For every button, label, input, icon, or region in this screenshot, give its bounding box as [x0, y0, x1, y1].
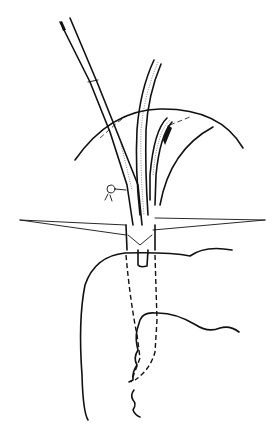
traction-suture-right-upper	[155, 218, 265, 220]
suture-knot-icon	[107, 185, 115, 193]
dashed-path-left	[126, 255, 140, 382]
dashed-contour-right	[170, 117, 190, 125]
instrument-shading	[100, 90, 132, 190]
incision-left	[126, 225, 127, 250]
illustration-canvas	[0, 0, 280, 435]
organ-inner-outline	[160, 127, 213, 205]
tube-outer-right	[146, 64, 161, 215]
lower-wavy-tail	[132, 390, 140, 417]
instrument-shaft-left-edge	[60, 22, 133, 225]
suture-ends	[105, 189, 126, 201]
medical-illustration	[0, 0, 280, 435]
incision-tip-v	[128, 235, 152, 245]
instrument-tip	[60, 21, 66, 31]
lower-organ-outline	[129, 313, 239, 382]
traction-suture-right-lower	[153, 220, 265, 230]
